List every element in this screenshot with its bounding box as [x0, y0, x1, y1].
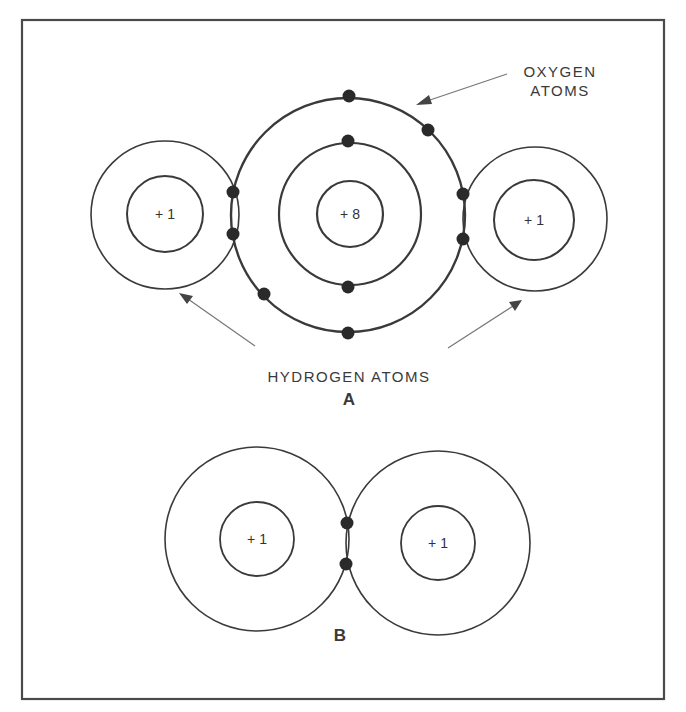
hydrogen-atoms-label: HYDROGEN ATOMS [268, 368, 431, 385]
electron [422, 124, 435, 137]
covalent-bond-diagram: + 1 + 1 + 8 OX [0, 0, 686, 712]
oxygen-label-line1: OXYGEN [523, 63, 596, 80]
oxygen-atom: + 8 [227, 90, 470, 340]
nucleus-charge-label: + 1 [247, 531, 267, 547]
panel-a-water-molecule: + 1 + 1 + 8 OX [91, 63, 607, 409]
electron [343, 90, 356, 103]
electron [258, 288, 271, 301]
arrowhead-icon [509, 300, 522, 311]
shared-electron [457, 233, 470, 246]
hydrogen-arrow-right-line [448, 306, 513, 348]
oxygen-atoms-callout: OXYGEN ATOMS [416, 63, 597, 105]
oxygen-label-line2: ATOMS [530, 82, 589, 99]
electron [342, 135, 355, 148]
hydrogen-atom-left-b: + 1 [165, 447, 349, 631]
panel-b-label: B [334, 626, 346, 645]
panel-b-hydrogen-molecule: + 1 + 1 B [165, 447, 530, 645]
panel-a-label: A [343, 390, 355, 409]
hydrogen-arrow-left-line [188, 299, 255, 346]
shared-electron [340, 558, 353, 571]
shared-electron [341, 517, 354, 530]
hydrogen-atom-left-a: + 1 [91, 141, 239, 289]
arrowhead-icon [179, 293, 193, 304]
figure-frame [22, 20, 664, 699]
hydrogen-atom-right-a: + 1 [463, 147, 607, 291]
shared-electron [227, 228, 240, 241]
hydrogen-atom-right-b: + 1 [346, 451, 530, 635]
nucleus-charge-label: + 1 [428, 535, 448, 551]
shared-electron [227, 186, 240, 199]
arrowhead-icon [416, 95, 432, 105]
electron [342, 327, 355, 340]
oxygen-arrow-line [427, 74, 507, 101]
electron [342, 281, 355, 294]
hydrogen-atoms-callout: HYDROGEN ATOMS A [179, 293, 522, 409]
nucleus-charge-label: + 1 [155, 206, 175, 222]
nucleus-charge-label: + 8 [340, 206, 360, 222]
shared-electron [457, 188, 470, 201]
nucleus-charge-label: + 1 [524, 212, 544, 228]
